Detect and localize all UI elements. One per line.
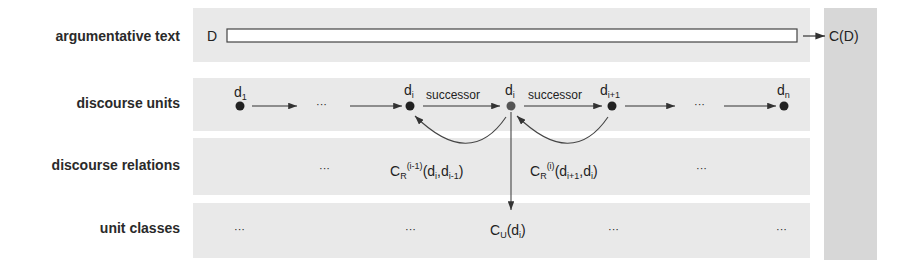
unit-label-di: di: [505, 82, 515, 100]
unit-node-di-prev: [406, 102, 415, 111]
unit-node-di-next: [608, 102, 617, 111]
unit-label-d1: d1: [234, 84, 247, 102]
relation-ellipsis-right: ···: [696, 162, 707, 174]
successor-label-2: successor: [528, 88, 582, 102]
unit-ellipsis-right: ···: [694, 98, 705, 110]
document-class-output: C(D): [829, 28, 859, 44]
relation-label-right: CR(i)(di+1,di): [530, 161, 598, 181]
document-symbol: D: [207, 28, 217, 44]
unit-label-di-next: di+1: [600, 82, 620, 100]
class-ellipsis-3: ···: [608, 223, 619, 235]
class-ellipsis-1: ···: [234, 223, 245, 235]
class-ellipsis-4: ···: [776, 223, 787, 235]
unit-label-di-prev: di: [404, 82, 414, 100]
successor-label-1: successor: [426, 88, 480, 102]
unit-label-dn: dn: [777, 82, 790, 100]
relation-ellipsis-left: ···: [319, 162, 330, 174]
diagram-canvas: D C(D) d1 ··· di successor di successor …: [0, 0, 903, 271]
unit-node-di: [507, 102, 516, 111]
document-bar: [227, 29, 797, 42]
unit-node-dn: [780, 102, 789, 111]
relation-label-left: CR(i-1)(di,di-1): [390, 161, 463, 181]
relation-arc-right: [517, 116, 608, 143]
unit-ellipsis-left: ···: [316, 98, 327, 110]
relation-arc-left: [415, 116, 506, 143]
class-ellipsis-2: ···: [405, 223, 416, 235]
unit-class-label: CU(di): [490, 222, 526, 240]
unit-node-d1: [236, 102, 245, 111]
